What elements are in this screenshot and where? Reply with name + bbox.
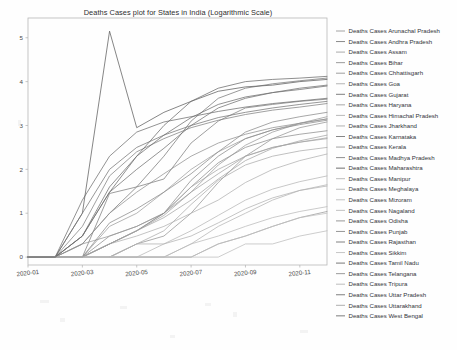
legend-label: Deaths Cases Arunachal Pradesh	[349, 27, 440, 34]
legend-item[interactable]: Deaths Cases Chhattisgarh	[336, 69, 423, 76]
legend-item[interactable]: Deaths Cases Kerala	[336, 143, 407, 150]
legend-item[interactable]: Deaths Cases Nagaland	[336, 207, 415, 214]
legend-label: Deaths Cases Odisha	[349, 217, 409, 224]
legend-label: Deaths Cases Tripura	[349, 280, 409, 287]
legend-item[interactable]: Deaths Cases Tripura	[336, 280, 408, 287]
legend-label: Deaths Cases Assam	[349, 48, 407, 55]
legend-item[interactable]: Deaths Cases Assam	[336, 48, 407, 55]
series-line	[28, 119, 327, 257]
legend-item[interactable]: Deaths Cases Gujarat	[336, 91, 409, 98]
legend-item[interactable]: Deaths Cases Himachal Pradesh	[336, 112, 438, 119]
legend-item[interactable]: Deaths Cases Karnataka	[336, 133, 417, 140]
series-lines	[28, 31, 327, 257]
y-axis-ticks: 012345	[20, 34, 28, 260]
legend-item[interactable]: Deaths Cases Manipur	[336, 175, 410, 182]
series-line	[28, 135, 327, 257]
series-line	[28, 231, 327, 257]
legend-label: Deaths Cases Punjab	[349, 228, 409, 235]
legend-item[interactable]: Deaths Cases Punjab	[336, 228, 408, 235]
legend-label: Deaths Cases Chhattisgarh	[349, 69, 424, 76]
legend-label: Deaths Cases Rajasthan	[349, 238, 416, 245]
legend-label: Deaths Cases Himachal Pradesh	[349, 112, 439, 119]
legend-item[interactable]: Deaths Cases Odisha	[336, 217, 408, 224]
legend-item[interactable]: Deaths Cases Goa	[336, 80, 401, 87]
legend-label: Deaths Cases Bihar	[349, 59, 403, 66]
legend-label: Deaths Cases Haryana	[349, 101, 413, 108]
legend-label: Deaths Cases Kerala	[349, 143, 407, 150]
series-line	[28, 86, 327, 257]
series-line	[28, 207, 327, 257]
legend-item[interactable]: Deaths Cases Maharashtra	[336, 164, 423, 171]
legend-item[interactable]: Deaths Cases West Bengal	[336, 312, 423, 319]
y-tick-label: 0	[20, 253, 24, 260]
legend-item[interactable]: Deaths Cases Telangana	[336, 270, 417, 277]
x-tick-label: 2020-05	[125, 268, 149, 277]
y-tick-label: 2	[20, 166, 24, 173]
legend-label: Deaths Cases Mizoram	[349, 196, 412, 203]
legend-label: Deaths Cases Gujarat	[349, 91, 409, 98]
legend-item[interactable]: Deaths Cases Madhya Pradesh	[336, 154, 435, 161]
legend-item[interactable]: Deaths Cases Sikkim	[336, 249, 406, 256]
legend-label: Deaths Cases Nagaland	[349, 207, 415, 214]
legend-item[interactable]: Deaths Cases Mizoram	[336, 196, 412, 203]
series-line	[28, 78, 327, 257]
series-line	[28, 176, 327, 257]
series-line	[28, 120, 327, 257]
series-line	[28, 101, 327, 257]
legend-label: Deaths Cases Tamil Nadu	[349, 259, 419, 266]
legend-item[interactable]: Deaths Cases Uttar Pradesh	[336, 291, 426, 298]
legend-label: Deaths Cases Madhya Pradesh	[349, 154, 435, 161]
legend-item[interactable]: Deaths Cases Bihar	[336, 59, 403, 66]
legend-label: Deaths Cases Andhra Pradesh	[349, 38, 433, 45]
series-line	[28, 139, 327, 257]
series-line	[28, 154, 327, 257]
x-tick-label: 2020-11	[288, 268, 311, 277]
legend: Deaths Cases Arunachal PradeshDeaths Cas…	[336, 27, 440, 319]
legend-item[interactable]: Deaths Cases Jharkhand	[336, 122, 417, 129]
legend-label: Deaths Cases Uttarakhand	[349, 302, 422, 309]
legend-item[interactable]: Deaths Cases Tamil Nadu	[336, 259, 419, 266]
y-tick-label: 1	[20, 209, 24, 216]
series-line	[28, 119, 327, 257]
legend-label: Deaths Cases Karnataka	[349, 133, 417, 140]
series-line	[28, 112, 327, 257]
series-line	[28, 99, 327, 257]
legend-item[interactable]: Deaths Cases Arunachal Pradesh	[336, 27, 440, 34]
x-tick-label: 2020-01	[16, 268, 40, 277]
series-line	[28, 138, 327, 257]
y-tick-label: 3	[20, 122, 24, 129]
legend-item[interactable]: Deaths Cases Andhra Pradesh	[336, 38, 432, 45]
legend-item[interactable]: Deaths Cases Rajasthan	[336, 238, 416, 245]
legend-label: Deaths Cases Uttar Pradesh	[349, 291, 427, 298]
series-line	[28, 98, 327, 257]
y-tick-label: 4	[20, 78, 24, 85]
series-line	[28, 117, 327, 257]
x-axis-ticks: 2020-012020-032020-052020-072020-092020-…	[16, 265, 311, 277]
figure-canvas: Deaths Cases plot for States in India (L…	[0, 0, 457, 350]
y-tick-label: 5	[20, 34, 24, 41]
x-tick-label: 2020-09	[234, 268, 258, 277]
legend-label: Deaths Cases Maharashtra	[349, 164, 424, 171]
legend-label: Deaths Cases Telangana	[349, 270, 418, 277]
series-line	[28, 85, 327, 257]
legend-label: Deaths Cases Goa	[349, 80, 401, 87]
legend-label: Deaths Cases Jharkhand	[349, 122, 417, 129]
chart-plot: 012345 2020-012020-032020-052020-072020-…	[0, 0, 457, 350]
legend-label: Deaths Cases Manipur	[349, 175, 411, 182]
series-line	[28, 131, 327, 257]
legend-item[interactable]: Deaths Cases Meghalaya	[336, 185, 419, 192]
x-tick-label: 2020-07	[179, 268, 203, 277]
legend-label: Deaths Cases West Bengal	[349, 312, 423, 319]
legend-label: Deaths Cases Meghalaya	[349, 185, 419, 192]
legend-item[interactable]: Deaths Cases Uttarakhand	[336, 302, 422, 309]
x-tick-label: 2020-03	[70, 268, 94, 277]
legend-label: Deaths Cases Sikkim	[349, 249, 407, 256]
legend-item[interactable]: Deaths Cases Haryana	[336, 101, 412, 108]
